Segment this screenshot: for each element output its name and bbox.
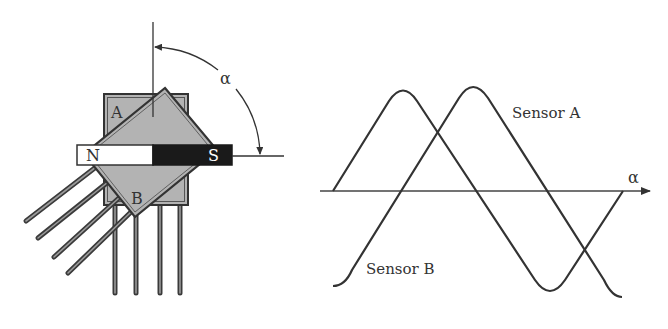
sensor-a-curve-label: Sensor A	[512, 104, 580, 122]
sensor-a-pins	[115, 200, 180, 293]
sensor-a-label: A	[110, 103, 123, 122]
magnet-north-label: N	[86, 146, 100, 165]
sensor-diagram-canvas: N S α A B α Sensor A Sensor B	[0, 0, 668, 329]
waveform-chart: α Sensor A Sensor B	[320, 87, 650, 297]
alpha-axis-label: α	[628, 168, 639, 187]
sensor-b-label: B	[131, 189, 143, 208]
angle-alpha-label: α	[220, 69, 231, 88]
bar-magnet: N S	[77, 145, 232, 165]
magnet-sensor-assembly: N S α A B	[26, 22, 284, 293]
magnet-south-label: S	[208, 146, 219, 165]
sensor-b-curve-label: Sensor B	[366, 260, 435, 278]
angle-arc-lower	[236, 89, 260, 154]
magnet-south-pole	[153, 145, 232, 165]
angle-arc	[155, 47, 218, 70]
